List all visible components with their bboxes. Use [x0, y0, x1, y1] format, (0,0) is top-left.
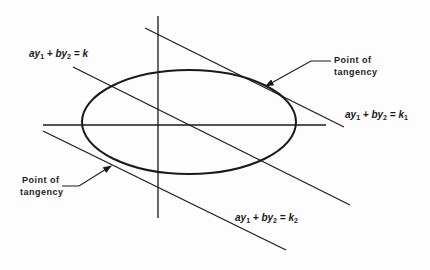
label-line2: tangency [334, 66, 378, 78]
tangency-arrow-upper [266, 61, 331, 86]
eq-equals: = [277, 212, 288, 223]
eq-plus: + [360, 109, 371, 120]
ellipse [82, 70, 296, 174]
eq-equals: = [387, 109, 398, 120]
equation-level-k: ay1 + by2 = k [29, 48, 88, 60]
label-line1: Point of [334, 54, 378, 66]
label-line1: Point of [20, 174, 64, 186]
tangent-line-k1 [145, 28, 344, 127]
eq-k-sub: 1 [404, 114, 408, 121]
eq-k-sub: 2 [294, 217, 298, 224]
eq-plus: + [44, 48, 55, 59]
tangent-line-k2 [43, 131, 286, 250]
tangency-label-upper: Point of tangency [334, 54, 378, 78]
tangency-label-lower: Point of tangency [20, 174, 64, 198]
eq-k: k [82, 48, 88, 59]
equation-upper-k1: ay1 + by2 = k1 [345, 109, 408, 121]
eq-plus: + [250, 212, 261, 223]
label-line2: tangency [20, 186, 64, 198]
diagram-canvas [0, 0, 430, 270]
level-line-k [73, 67, 350, 205]
equation-lower-k2: ay1 + by2 = k2 [235, 212, 298, 224]
tangency-arrow-lower [62, 166, 111, 186]
eq-equals: = [71, 48, 82, 59]
